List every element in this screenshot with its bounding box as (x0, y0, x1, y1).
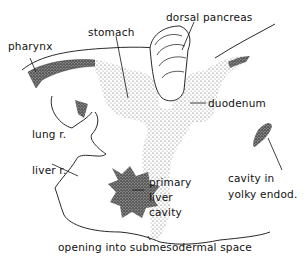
pharynx-shape (28, 60, 100, 89)
label-dorsal-pancreas: dorsal pancreas (166, 11, 253, 23)
label-pharynx: pharynx (8, 40, 53, 52)
lung-outline (51, 96, 92, 128)
label-duodenum: duodenum (208, 97, 266, 109)
label-yolky-endod: yolky endod. (228, 188, 297, 200)
label-lung-r: lung r. (32, 128, 66, 140)
label-opening: opening into submesodermal space (58, 241, 252, 253)
body-outline-right (215, 24, 275, 58)
yolky-cavity-shape (253, 123, 272, 147)
diagram-canvas: pharynx stomach dorsal pancreas duodenum… (0, 0, 307, 258)
label-cavity-in: cavity in (228, 172, 274, 184)
label-liver-r: liver r. (32, 164, 66, 176)
label-primary: primary (149, 176, 192, 188)
label-stomach: stomach (88, 26, 135, 38)
lung-bud-shape (75, 100, 88, 118)
label-cavity: cavity (149, 206, 182, 218)
label-liver: liver (149, 191, 173, 203)
